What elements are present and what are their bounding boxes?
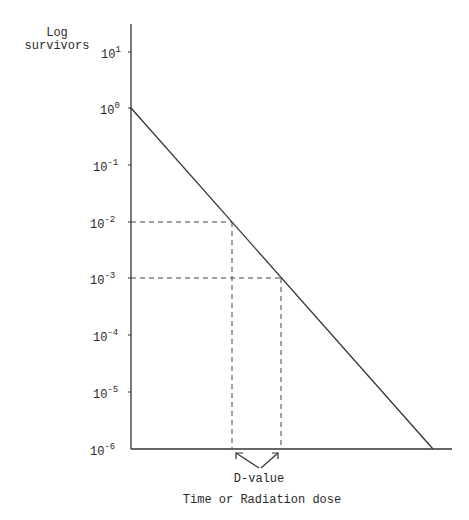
y-tick-label: 100 — [100, 101, 120, 118]
y-tick-label: 101 — [101, 45, 121, 62]
arrow-left-icon — [236, 453, 259, 468]
d-value-arrows — [236, 453, 278, 468]
y-tick-label: 10-1 — [93, 158, 118, 175]
arrow-right-icon — [261, 453, 278, 468]
y-axis-label-line2: survivors — [25, 39, 90, 53]
y-tick-labels: 101 100 10-1 10-2 10-3 10-4 10-5 10-6 — [90, 45, 121, 459]
d-value-guides — [131, 222, 281, 449]
x-axis-label: Time or Radiation dose — [183, 493, 341, 507]
y-tick-label: 10-5 — [93, 385, 118, 402]
y-tick-label: 10-4 — [93, 328, 118, 345]
y-tick-label: 10-6 — [90, 442, 115, 459]
y-axis-label-line1: Log — [46, 26, 68, 40]
y-tick-label: 10-3 — [90, 271, 115, 288]
y-tick-label: 10-2 — [90, 215, 115, 232]
survival-curve-chart: Log survivors 101 100 10-1 10-2 10-3 10-… — [0, 0, 469, 520]
d-value-label: D-value — [234, 472, 284, 486]
